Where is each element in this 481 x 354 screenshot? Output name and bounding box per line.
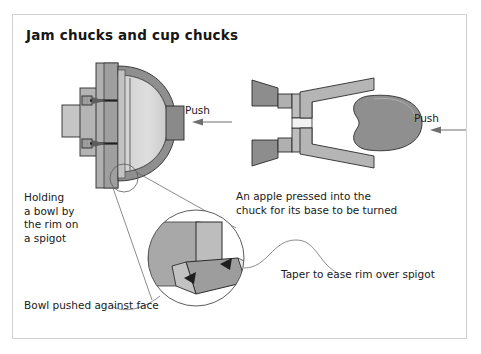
caption-apple-in-chuck: An apple pressed into the chuck for its …: [236, 190, 397, 217]
push-arrow-right: [430, 126, 466, 133]
detail-callout: [110, 164, 336, 310]
push-label-right: Push: [414, 112, 439, 124]
tailstock-center: [166, 106, 184, 140]
spigot-chuck-body: [96, 63, 118, 188]
detail-circle-content: [146, 208, 246, 308]
caption-bowl-pushed-against-face: Bowl pushed against face: [24, 299, 159, 313]
caption-holding-bowl: Holding a bowl by the rim on a spigot: [24, 191, 78, 245]
push-label-left: Push: [185, 104, 210, 116]
caption-taper: Taper to ease rim over spigot: [281, 268, 435, 282]
push-arrow-left: [192, 118, 232, 125]
page-title: Jam chucks and cup chucks: [26, 27, 238, 43]
left-illustration: [62, 63, 232, 188]
apple-blank: [354, 95, 422, 151]
